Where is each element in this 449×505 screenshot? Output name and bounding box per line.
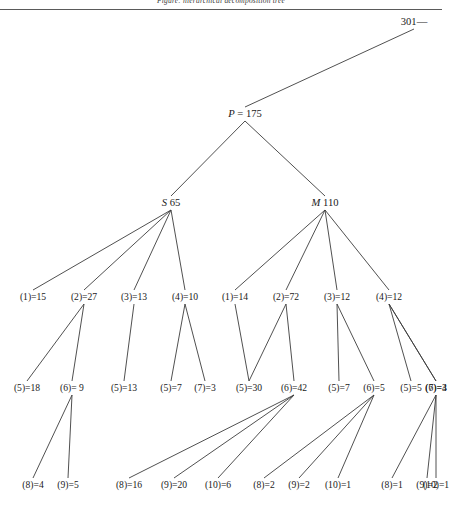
tree-edge — [338, 395, 374, 478]
tree-node-l4c: (5)=13 — [111, 383, 137, 393]
tree-node-l5e: (10)=6 — [205, 480, 231, 490]
node-italic-symbol: P — [228, 108, 234, 119]
tree-node-l5a: (8)=4 — [22, 480, 43, 490]
tree-node-r4g: (7)=3 — [425, 383, 446, 393]
tree-node-m: M 110 — [312, 198, 339, 209]
tree-node-r3d: (4)=12 — [376, 292, 402, 302]
node-italic-symbol: M — [312, 197, 321, 208]
header-divider-rule — [0, 9, 442, 10]
tree-edge — [171, 121, 245, 196]
tree-edge — [392, 395, 436, 478]
tree-edge — [33, 395, 72, 478]
tree-edge — [124, 304, 134, 381]
tree-edge — [129, 395, 294, 478]
tree-edge — [264, 395, 374, 478]
tree-node-r5c: (10)=1 — [325, 480, 351, 490]
tree-node-l3d: (4)=10 — [172, 292, 198, 302]
tree-edge — [72, 304, 84, 381]
tree-edge — [235, 210, 325, 290]
tree-edge — [325, 210, 337, 290]
tree-edge — [389, 304, 436, 381]
tree-edge — [171, 210, 185, 290]
tree-edge — [286, 304, 294, 381]
tree-node-r5d: (8)=1 — [381, 480, 402, 490]
tree-node-l3b: (2)=27 — [71, 292, 97, 302]
tree-node-l4e: (7)=3 — [194, 383, 215, 393]
tree-edge — [389, 304, 436, 381]
tree-edge — [68, 395, 72, 478]
tree-edge — [185, 304, 205, 381]
tree-node-l3a: (1)=15 — [20, 292, 46, 302]
tree-node-r4a: (5)=30 — [236, 383, 262, 393]
tree-edge — [174, 395, 294, 478]
tree-node-r4d: (6)=5 — [363, 383, 384, 393]
tree-node-r3c: (3)=12 — [324, 292, 350, 302]
running-head: Figure: hierarchical decomposition tree — [0, 0, 442, 5]
tree-node-l3c: (3)=13 — [121, 292, 147, 302]
tree-edge — [286, 210, 325, 290]
tree-edge — [427, 395, 436, 478]
tree-edge — [84, 210, 171, 290]
tree-node-r5a: (8)=2 — [253, 480, 274, 490]
tree-node-l5d: (9)=20 — [161, 480, 187, 490]
tree-edge — [389, 304, 411, 381]
tree-node-l5b: (9)=5 — [57, 480, 78, 490]
tree-edge — [171, 304, 185, 381]
tree-edge — [27, 304, 84, 381]
tree-node-p: P = 175 — [228, 109, 262, 120]
tree-node-r4b: (6)=42 — [281, 383, 307, 393]
tree-node-r3b: (2)=72 — [273, 292, 299, 302]
tree-edge — [337, 304, 374, 381]
tree-edge — [33, 210, 171, 290]
tree-edge — [218, 395, 294, 478]
tree-node-r4c: (5)=7 — [328, 383, 349, 393]
tree-edge — [245, 29, 414, 107]
tree-edge — [245, 121, 325, 196]
tree-edge — [235, 304, 249, 381]
tree-node-r3a: (1)=14 — [222, 292, 248, 302]
tree-edge — [134, 210, 171, 290]
tree-node-root: 301— — [401, 17, 427, 28]
tree-edge — [249, 304, 286, 381]
tree-node-l5c: (8)=16 — [116, 480, 142, 490]
tree-node-l4b: (6)= 9 — [60, 383, 84, 393]
tree-node-r4e: (5)=5 — [400, 383, 421, 393]
tree-node-s: S 65 — [162, 198, 181, 209]
tree-node-l4d: (5)=7 — [160, 383, 181, 393]
tree-node-r5f: (10)=1 — [423, 480, 449, 490]
tree-edge — [299, 395, 374, 478]
tree-edge — [337, 304, 339, 381]
tree-node-l4a: (5)=18 — [14, 383, 40, 393]
tree-edge — [325, 210, 389, 290]
tree-node-r5b: (9)=2 — [288, 480, 309, 490]
node-italic-symbol: S — [162, 197, 167, 208]
